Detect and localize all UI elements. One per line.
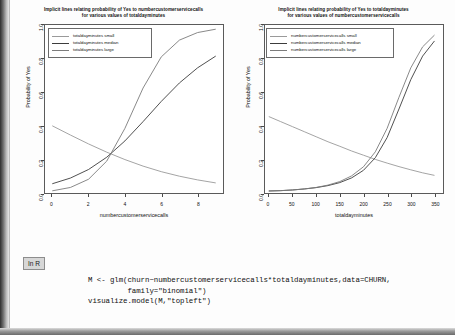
y-axis-label-right: Probability of Yes: [245, 17, 251, 157]
legend-item-label: totaldayminutes median: [73, 40, 118, 46]
legend-item-label: numbercustomerservicecalls small: [291, 33, 357, 39]
x-axis-tick-label: 4: [123, 201, 126, 207]
in-r-badge: In R: [23, 257, 45, 270]
legend-line-icon: [52, 50, 69, 51]
legend-item-label: numbercustomerservicecalls median: [291, 40, 361, 46]
x-axis-tick-label: 0: [50, 201, 53, 207]
x-axis-tick-label: 8: [197, 201, 200, 207]
x-axis-tick-mark: [411, 194, 412, 197]
x-axis-tick-label: 150: [335, 201, 343, 207]
chart-title-right: Implicit lines relating probability of Y…: [234, 7, 453, 20]
x-axis-tick-mark: [268, 194, 269, 197]
y-axis-right: Probability of Yes 0.00.20.40.60.81.0: [234, 24, 264, 194]
x-axis-right: totaldayminutes 050100150200250300350: [264, 194, 444, 234]
x-axis-tick-mark: [88, 194, 89, 197]
legend-item: numbercustomerservicecalls small: [270, 33, 389, 39]
legend-item: totaldayminutes small: [52, 33, 147, 39]
x-axis-tick-mark: [340, 194, 341, 197]
x-axis-tick-mark: [292, 194, 293, 197]
legend-item: numbercustomerservicecalls median: [270, 40, 389, 46]
legend-line-icon: [270, 36, 287, 37]
x-axis-tick-label: 300: [407, 201, 415, 207]
x-axis-tick-mark: [388, 194, 389, 197]
r-code-text: M <- glm(churn~numbercustomerservicecall…: [88, 275, 391, 307]
legend-item-label: totaldayminutes small: [73, 33, 114, 39]
chart-series-line: [269, 117, 435, 176]
legend-line-icon: [270, 50, 287, 51]
charts-row: Implicit lines relating probability of Y…: [10, 4, 453, 236]
y-axis-label-left: Probability of Yes: [25, 17, 31, 157]
chart-series-line: [269, 35, 435, 191]
x-axis-tick-mark: [162, 194, 163, 197]
x-axis-tick-mark: [435, 194, 436, 197]
legend-line-icon: [270, 43, 287, 44]
x-axis-tick-label: 350: [431, 201, 439, 207]
x-axis-tick-label: 100: [312, 201, 320, 207]
chart-series-line: [52, 126, 215, 183]
chart-series-line: [52, 56, 215, 184]
scan-bottom-edge-artifact: [0, 328, 455, 335]
legend-line-icon: [52, 36, 69, 37]
legend-item: numbercustomerservicecalls large: [270, 47, 389, 53]
chart-panel-left: Implicit lines relating probability of Y…: [14, 4, 233, 236]
code-block: In R M <- glm(churn~numbercustomerservic…: [10, 245, 453, 315]
x-axis-tick-label: 2: [87, 201, 90, 207]
x-axis-tick-mark: [125, 194, 126, 197]
legend-line-icon: [52, 43, 69, 44]
x-axis-tick-mark: [51, 194, 52, 197]
x-axis-tick-mark: [364, 194, 365, 197]
legend-left: totaldayminutes small totaldayminutes me…: [48, 28, 152, 58]
legend-right: numbercustomerservicecalls small numberc…: [266, 28, 394, 58]
x-axis-label-left: numbercustomerservicecalls: [44, 212, 224, 218]
scanned-page: Implicit lines relating probability of Y…: [0, 0, 455, 335]
x-axis-tick-label: 200: [359, 201, 367, 207]
x-axis-left: numbercustomerservicecalls 02468: [44, 194, 224, 234]
scan-left-edge-artifact: [0, 0, 9, 335]
legend-item-label: numbercustomerservicecalls large: [291, 47, 356, 53]
x-axis-tick-mark: [198, 194, 199, 197]
x-axis-tick-label: 50: [289, 201, 295, 207]
chart-series-line: [269, 41, 435, 191]
x-axis-label-right: totaldayminutes: [264, 212, 444, 218]
legend-item: totaldayminutes median: [52, 40, 147, 46]
chart-panel-right: Implicit lines relating probability of Y…: [234, 4, 453, 236]
legend-item: totaldayminutes large: [52, 47, 147, 53]
chart-title-left-line2: for various values of totaldayminutes: [14, 13, 233, 19]
x-axis-tick-label: 6: [160, 201, 163, 207]
page-content: Implicit lines relating probability of Y…: [10, 0, 455, 328]
x-axis-tick-label: 0: [266, 201, 269, 207]
legend-item-label: totaldayminutes large: [73, 47, 114, 53]
chart-title-left: Implicit lines relating probability of Y…: [14, 7, 233, 20]
x-axis-tick-label: 250: [383, 201, 391, 207]
y-axis-left: Probability of Yes 0.00.20.40.60.81.0: [14, 24, 44, 194]
chart-title-right-line2: for various values of numbercustomerserv…: [234, 13, 453, 19]
x-axis-tick-mark: [316, 194, 317, 197]
